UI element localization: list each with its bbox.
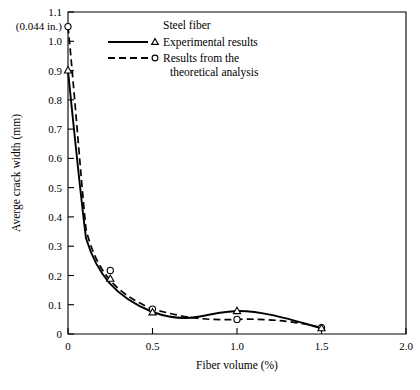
x-axis-ticks (68, 328, 406, 334)
series-experimental (68, 71, 322, 329)
legend-label-theoretical-line1: Results from the (163, 52, 239, 64)
x-tick-label: 0 (65, 340, 71, 352)
data-point-circle (234, 316, 240, 322)
y-tick-label: 0.1 (48, 299, 62, 311)
legend-label-experimental: Experimental results (163, 36, 258, 49)
x-tick-label: 2.0 (399, 340, 413, 352)
y-tick-label: 0.6 (48, 152, 62, 164)
x-axis-tick-labels: 0 0.5 1.0 1.5 2.0 (65, 340, 413, 352)
y-tick-label: 0.5 (48, 182, 62, 194)
y-tick-label: 0.2 (48, 270, 62, 282)
y-axis-inch-annotation: (0.044 in.) (16, 20, 62, 33)
data-point-circle (107, 267, 113, 273)
x-tick-label: 1.0 (230, 340, 244, 352)
y-tick-label: 0 (57, 328, 63, 340)
x-tick-label: 1.5 (315, 340, 329, 352)
markers-experimental (64, 67, 325, 331)
chart-svg: 1.1 1.0 0.9 0.8 0.7 0.6 0.5 0.4 0.3 0.2 … (0, 0, 420, 390)
data-point-triangle (64, 67, 71, 73)
chart-figure: 1.1 1.0 0.9 0.8 0.7 0.6 0.5 0.4 0.3 0.2 … (0, 0, 420, 390)
x-axis-title: Fiber volume (%) (196, 359, 278, 372)
y-axis-title: Averge crack width (mm) (10, 114, 23, 232)
legend-marker-circle (152, 55, 158, 61)
y-tick-label: 0.7 (48, 123, 62, 135)
y-tick-label: 0.4 (48, 211, 62, 223)
y-tick-label: 0.9 (48, 65, 62, 77)
y-tick-label: 1.0 (48, 35, 62, 47)
data-point-circle (65, 24, 71, 30)
y-tick-label: 1.1 (48, 6, 62, 18)
legend-label-theoretical-line2: theoretical analysis (170, 66, 259, 79)
x-tick-label: 0.5 (146, 340, 160, 352)
legend-title: Steel fiber (163, 19, 211, 31)
legend: Steel fiber Experimental results Results… (108, 19, 259, 79)
legend-marker-triangle (152, 39, 159, 45)
y-axis-tick-labels: 1.1 1.0 0.9 0.8 0.7 0.6 0.5 0.4 0.3 0.2 … (48, 6, 62, 340)
y-tick-label: 0.3 (48, 240, 62, 252)
y-tick-label: 0.8 (48, 94, 62, 106)
